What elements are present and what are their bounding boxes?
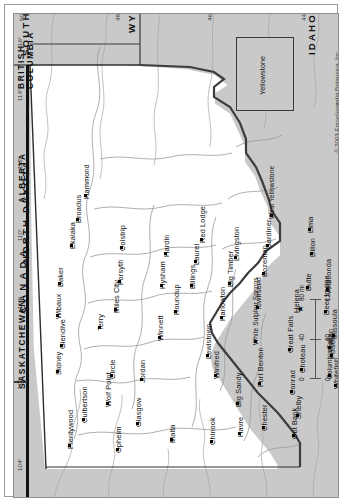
city-label-red-lodge: Red Lodge: [198, 206, 207, 243]
city-label-winifred: Winifred: [212, 351, 221, 379]
city-label-butte: Butte: [304, 273, 313, 291]
city-label-havre: Havre: [236, 417, 245, 437]
city-label-hysham: Hysham: [158, 261, 167, 289]
graticule-lon-106: 106°: [16, 376, 23, 389]
map-outer-frame: NORTH DAKOTA SOUTH DAKOTA WYOMING IDAHO …: [4, 4, 338, 497]
scale-tick-bottom: [310, 378, 321, 379]
city-label-broadus: Broadus: [74, 195, 83, 223]
graticule-lat-50: 50°: [18, 13, 25, 21]
park-label-yellowstone: Yellowstone: [258, 56, 267, 95]
city-label-laurel: Laurel: [192, 244, 201, 265]
city-label-townsend: Townsend: [254, 277, 263, 311]
city-label-shelby: Shelby: [294, 396, 303, 419]
city-label-chinook: Chinook: [208, 417, 217, 445]
city-label-lima: Lima: [306, 217, 315, 233]
city-label-great-falls: Great Falls: [286, 316, 295, 353]
city-label-big-sandy: Big Sandy: [234, 372, 243, 407]
city-label-ekalaka: Ekalaka: [68, 222, 77, 249]
city-label-malta: Malta: [168, 424, 177, 443]
city-label-west-yellowstone: West Yellowstone: [268, 166, 275, 219]
graticule-lat-48: 48°: [114, 13, 121, 21]
city-label-jordan: Jordan: [138, 360, 147, 383]
city-label-bozeman: Bozeman: [260, 245, 269, 277]
map-page: NORTH DAKOTA SOUTH DAKOTA WYOMING IDAHO …: [0, 0, 342, 501]
graticule-lon-114: 114°: [16, 89, 23, 101]
city-label-glasgow: Glasgow: [134, 398, 143, 427]
city-label-conrad: Conrad: [288, 370, 297, 395]
city-label-hardin: Hardin: [162, 235, 171, 257]
city-label-plentywood: Plentywood: [66, 410, 75, 449]
scale-bar: 80 mi 40 0 120 km 60 0: [300, 295, 334, 385]
graticule-lon-112: 112°: [16, 157, 23, 169]
scale-label-km-min: 0: [324, 377, 331, 381]
city-label-roundup: Roundup: [172, 284, 181, 315]
scale-label-miles-max: 80 mi: [298, 285, 305, 301]
region-label-columbia: COLUMBIA: [25, 31, 35, 89]
city-label-dillon: Dillon: [308, 238, 317, 257]
city-label-wibaux: Wibaux: [54, 294, 63, 319]
city-label-sidney: Sidney: [54, 352, 63, 375]
city-label-circle: Circle: [108, 360, 117, 380]
city-label-terry: Terry: [96, 314, 105, 331]
map-canvas[interactable]: NORTH DAKOTA SOUTH DAKOTA WYOMING IDAHO …: [13, 13, 339, 498]
city-label-forsyth: Forsyth: [116, 260, 125, 285]
graticule-lat-44: 44°: [300, 13, 307, 21]
city-label-glendive: Glendive: [58, 319, 67, 349]
scale-tick-top: [310, 299, 321, 300]
city-label-harlowton: Harlowton: [218, 287, 227, 321]
city-label-fort-benton: Fort Benton: [256, 347, 265, 387]
graticule-lon-104: 104°: [16, 458, 23, 471]
city-label-superior: Superior: [338, 316, 339, 345]
region-label-wyoming: WYOMING: [126, 13, 137, 33]
city-label-winnett: Winnett: [156, 315, 165, 341]
city-dot[interactable]: [338, 372, 339, 375]
city-label-culbertson: Culbertson: [80, 386, 89, 423]
map-rotated-layer: NORTH DAKOTA SOUTH DAKOTA WYOMING IDAHO …: [14, 14, 339, 498]
copyright-credit: © 2003 Encyclopædia Britannica, Inc.: [333, 50, 339, 153]
city-label-gardiner: Gardiner: [264, 219, 273, 249]
city-label-billings: Billings: [188, 265, 197, 289]
city-label-livingston: Livingston: [232, 227, 241, 261]
graticule-lon-110: 110°: [16, 229, 23, 241]
city-label-hammond: Hammond: [82, 164, 91, 199]
city-label-chester: Chester: [260, 404, 269, 431]
scale-label-miles-mid: 40: [298, 334, 305, 341]
region-label-idaho: IDAHO: [306, 13, 317, 55]
scale-label-km-max: 120 km: [324, 280, 331, 301]
scale-tick-mid: [310, 339, 321, 340]
scale-label-km-mid: 60: [324, 334, 331, 341]
city-label-baker: Baker: [56, 267, 65, 287]
city-label-opheim: Opheim: [114, 427, 123, 453]
graticule-lon-108: 108°: [16, 296, 23, 309]
graticule-lon-116: 116°: [16, 37, 23, 49]
graticule-lat-46: 46°: [206, 13, 213, 21]
scale-label-miles-min: 0: [298, 377, 305, 381]
city-label-colstrip: Colstrip: [118, 225, 127, 251]
